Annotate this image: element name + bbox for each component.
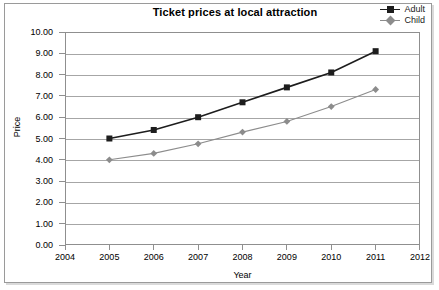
x-tick-label: 2006 [144, 252, 164, 262]
y-tick-label: 10.00 [30, 27, 53, 37]
y-tick-label: 7.00 [35, 91, 53, 101]
data-point-child [195, 140, 202, 147]
legend-marker-diamond-icon [380, 15, 400, 26]
data-point-adult [373, 48, 379, 54]
chart-screenshot: Ticket prices at local attraction Adult … [0, 0, 439, 290]
x-tick-label: 2009 [277, 252, 297, 262]
legend-label-adult: Adult [404, 4, 425, 15]
chart-legend: Adult Child [380, 4, 425, 26]
data-point-child [283, 118, 290, 125]
series-layer [65, 32, 420, 245]
y-tick-label: 1.00 [35, 219, 53, 229]
y-axis-title: Price [12, 97, 22, 157]
data-point-child [239, 129, 246, 136]
x-tick-label: 2010 [321, 252, 341, 262]
plot-area [65, 32, 420, 245]
data-point-adult [151, 127, 157, 133]
x-tick-label: 2005 [99, 252, 119, 262]
legend-marker-square-icon [380, 4, 400, 15]
data-point-child [328, 103, 335, 110]
x-tick-label: 2012 [410, 252, 430, 262]
legend-item-adult: Adult [380, 4, 425, 15]
y-tick-label: 5.00 [35, 134, 53, 144]
data-point-adult [284, 84, 290, 90]
x-axis-title: Year [65, 270, 420, 280]
y-tick-label: 0.00 [35, 240, 53, 250]
x-tick-label: 2008 [232, 252, 252, 262]
y-tick-label: 8.00 [35, 70, 53, 80]
x-tick-label: 2011 [366, 252, 385, 262]
x-axis-tick-labels: 200420052006200720082009201020112012 [65, 252, 420, 265]
data-point-child [372, 86, 379, 93]
y-tick-label: 3.00 [35, 176, 53, 186]
data-point-child [150, 150, 157, 157]
chart-title: Ticket prices at local attraction [60, 6, 410, 18]
data-point-adult [328, 69, 334, 75]
y-tick-label: 9.00 [35, 48, 53, 58]
data-point-adult [240, 99, 246, 105]
series-line-adult [109, 51, 375, 138]
x-tick-label: 2007 [188, 252, 208, 262]
legend-label-child: Child [404, 15, 425, 26]
y-tick-label: 2.00 [35, 197, 53, 207]
y-tick-label: 6.00 [35, 112, 53, 122]
data-point-child [106, 156, 113, 163]
y-tick-label: 4.00 [35, 155, 53, 165]
y-axis-tick-labels: 0.001.002.003.004.005.006.007.008.009.00… [0, 32, 59, 245]
data-point-adult [195, 114, 201, 120]
x-axis-tick-marks [65, 245, 420, 251]
data-point-adult [106, 136, 112, 142]
x-tick-label: 2004 [55, 252, 75, 262]
legend-item-child: Child [380, 15, 425, 26]
